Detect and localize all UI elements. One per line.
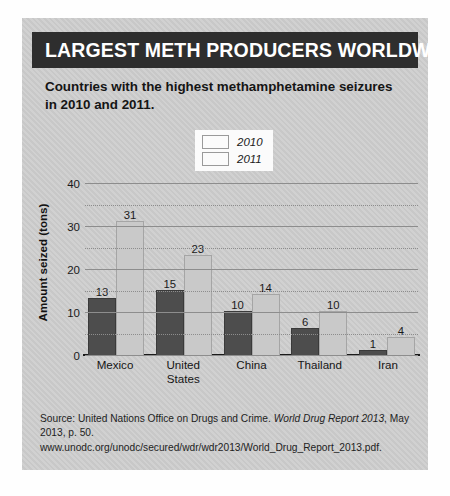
bar-mexico-2011: 31 xyxy=(116,221,144,356)
legend-item-2010: 2010 xyxy=(202,135,263,149)
y-axis-tick: 20 xyxy=(67,264,80,276)
gridline-minor xyxy=(85,205,418,206)
bar-mexico-2010: 13 xyxy=(88,298,116,356)
x-axis-tick-thailand: Thailand xyxy=(293,358,347,386)
gridline-minor xyxy=(85,248,418,249)
bar-united-states-2010: 15 xyxy=(156,290,184,357)
bar-value-label: 1 xyxy=(370,338,376,350)
source-text-pre: Source: United Nations Office on Drugs a… xyxy=(40,413,274,424)
y-axis-tick: 40 xyxy=(67,178,80,190)
bar-groups: 13311523101461014 xyxy=(85,184,418,356)
chart-legend: 2010 2011 xyxy=(195,130,273,171)
gridline-major: 30 xyxy=(85,226,418,227)
gridline-major: 10 xyxy=(85,312,418,313)
chart-card: LARGEST METH PRODUCERS WORLDWIDE Countri… xyxy=(22,18,428,470)
legend-label-2010: 2010 xyxy=(237,136,263,148)
gridline-major: 20 xyxy=(85,269,418,270)
legend-swatch-2010 xyxy=(202,135,229,149)
bar-value-label: 10 xyxy=(327,299,340,311)
source-report-title: World Drug Report 2013 xyxy=(274,413,384,424)
infographic-figure: LARGEST METH PRODUCERS WORLDWIDE Countri… xyxy=(0,0,450,496)
bar-iran-2011: 4 xyxy=(387,337,415,356)
bar-value-label: 15 xyxy=(163,278,176,290)
bar-value-label: 10 xyxy=(231,299,244,311)
plot-canvas: 13311523101461014 010203040 xyxy=(85,184,418,356)
legend-item-2011: 2011 xyxy=(202,152,263,166)
bar-group: 1331 xyxy=(88,184,144,356)
y-axis-tick: 10 xyxy=(67,307,80,319)
source-note: Source: United Nations Office on Drugs a… xyxy=(40,412,412,455)
bar-china-2011: 14 xyxy=(252,294,280,356)
chart-subtitle: Countries with the highest methamphetami… xyxy=(45,78,395,113)
gridline-minor xyxy=(85,334,418,335)
x-axis-tick-china: China xyxy=(225,358,279,386)
gridline-major: 40 xyxy=(85,183,418,184)
legend-swatch-2011 xyxy=(202,152,229,166)
title-banner: LARGEST METH PRODUCERS WORLDWIDE xyxy=(32,32,418,68)
bar-value-label: 4 xyxy=(398,325,404,337)
legend-label-2011: 2011 xyxy=(237,153,262,165)
bar-united-states-2011: 23 xyxy=(184,255,212,356)
bar-group: 1523 xyxy=(156,184,212,356)
x-axis-labels: MexicoUnited StatesChinaThailandIran xyxy=(85,358,418,386)
bar-value-label: 23 xyxy=(191,243,204,255)
bar-value-label: 31 xyxy=(124,209,137,221)
bar-value-label: 6 xyxy=(302,316,308,328)
gridline-minor xyxy=(85,291,418,292)
bar-value-label: 13 xyxy=(96,286,109,298)
x-axis-tick-mexico: Mexico xyxy=(88,358,142,386)
bar-value-label: 14 xyxy=(259,282,272,294)
bar-thailand-2010: 6 xyxy=(291,328,319,356)
bar-group: 14 xyxy=(359,184,415,356)
bar-group: 610 xyxy=(291,184,347,356)
plot-area: Amount seized (tons) 13311523101461014 0… xyxy=(22,168,428,383)
y-axis-tick: 0 xyxy=(74,350,80,362)
page-title: LARGEST METH PRODUCERS WORLDWIDE xyxy=(32,39,428,62)
x-axis-tick-iran: Iran xyxy=(361,358,415,386)
x-axis-tick-united-states: United States xyxy=(156,358,210,386)
y-axis-tick: 30 xyxy=(67,221,80,233)
gridline-major: 0 xyxy=(85,355,418,356)
bar-group: 1014 xyxy=(224,184,280,356)
y-axis-title: Amount seized (tons) xyxy=(36,193,49,333)
